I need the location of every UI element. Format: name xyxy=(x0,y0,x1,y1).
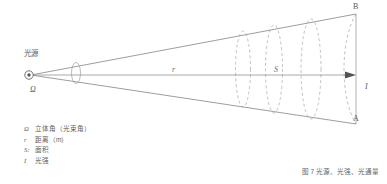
legend-item: S: 面积 xyxy=(24,145,91,156)
legend: Ω 立体角（光束角） r 距离（m） S: 面积 I 光强 xyxy=(24,124,91,167)
legend-text: 光强 xyxy=(35,156,49,167)
light-source-label: 光源 xyxy=(24,50,38,58)
legend-text: 面积 xyxy=(35,145,49,156)
legend-item: r 距离（m） xyxy=(24,135,91,146)
figure-caption: 图 7 光源、光强、光通量 xyxy=(302,166,379,176)
cross-section-ellipse-1 xyxy=(236,31,251,107)
point-b-label: B xyxy=(353,3,358,11)
cross-section-ellipse-3 xyxy=(301,19,321,119)
axis-arrowhead xyxy=(345,71,356,78)
legend-text: 立体角（光束角） xyxy=(35,124,91,135)
point-a-label: A xyxy=(353,115,359,123)
legend-text: 距离（m） xyxy=(35,135,69,146)
cone-lower-edge xyxy=(31,75,356,124)
terminal-cap-dashed-arc xyxy=(344,14,356,124)
light-source-point-inner xyxy=(27,73,30,76)
legend-symbol: I xyxy=(24,156,33,167)
intensity-symbol-label: I xyxy=(365,83,368,91)
legend-symbol: Ω xyxy=(24,124,33,135)
solid-angle-aperture-ellipse xyxy=(72,63,81,84)
legend-symbol: r xyxy=(24,135,33,146)
figure-container: 光源 Ω r S B A I Ω 立体角（光束角） r 距离（m） S: 面积 … xyxy=(0,0,387,184)
legend-symbol: S: xyxy=(24,145,33,156)
legend-item: Ω 立体角（光束角） xyxy=(24,124,91,135)
legend-item: I 光强 xyxy=(24,156,91,167)
area-symbol-label: S xyxy=(274,66,278,74)
distance-symbol-label: r xyxy=(172,66,175,74)
solid-angle-symbol-label: Ω xyxy=(30,86,36,94)
